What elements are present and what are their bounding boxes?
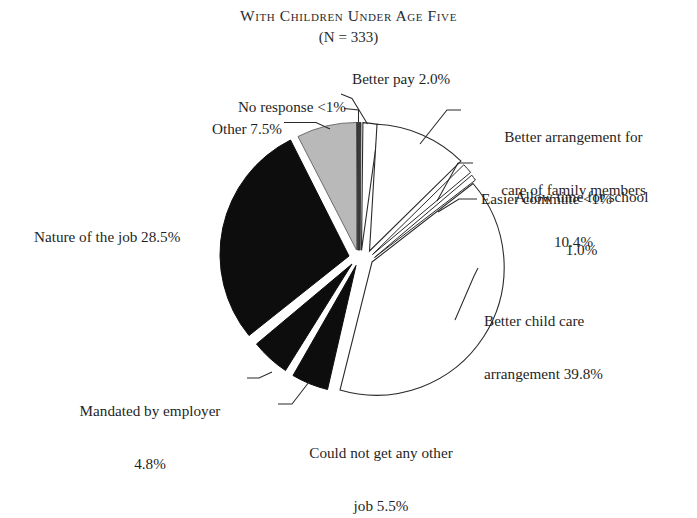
- label-nature-of-the-job: Nature of the job 28.5%: [34, 228, 180, 246]
- label-mandated-line1: Mandated by employer: [55, 402, 245, 420]
- label-could-not-line1: Could not get any other: [281, 444, 481, 462]
- label-better-child-care-line1: Better child care: [484, 312, 694, 330]
- label-mandated-line2: 4.8%: [55, 455, 245, 473]
- leader-line-no-response: [344, 109, 359, 123]
- label-could-not-line2: job 5.5%: [281, 497, 481, 515]
- label-easier-commute: Easier commute <1%: [481, 190, 612, 208]
- label-allow-time-for-school: Allow time for school 1.0%: [474, 153, 689, 293]
- label-mandated-by-employer: Mandated by employer 4.8%: [55, 367, 245, 507]
- label-no-response: No response <1%: [60, 98, 346, 116]
- slice-no-response: [357, 123, 361, 251]
- label-better-child-care-line2: arrangement 39.8%: [484, 365, 694, 383]
- label-could-not-get-other-job: Could not get any other job 5.5%: [281, 409, 481, 518]
- leader-line-mandated-by-employer: [247, 372, 272, 378]
- label-better-arrangement-line1: Better arrangement for: [452, 128, 695, 146]
- label-better-child-care-arrangement: Better child care arrangement 39.8%: [484, 277, 694, 417]
- label-allow-school-line2: 1.0%: [474, 241, 689, 259]
- label-other: Other 7.5%: [60, 120, 282, 138]
- label-better-pay: Better pay 2.0%: [352, 70, 450, 88]
- leader-line-could-not-get-other-job: [278, 382, 309, 404]
